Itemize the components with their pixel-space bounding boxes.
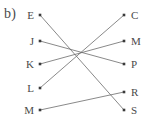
node-label-left-l: L — [27, 83, 34, 94]
node-dot-right-p[interactable] — [123, 63, 126, 66]
mapping-diagram: b) EJKLMCMPRS — [0, 0, 154, 122]
node-dot-right-r[interactable] — [123, 91, 126, 94]
node-label-right-s: S — [131, 105, 137, 116]
node-label-left-k: K — [26, 59, 34, 70]
node-dot-left-k[interactable] — [39, 63, 42, 66]
node-dot-left-l[interactable] — [39, 87, 42, 90]
node-label-left-m: M — [24, 105, 34, 116]
node-dot-left-j[interactable] — [39, 40, 42, 43]
node-label-right-r: R — [131, 87, 138, 98]
edge-l-to-c[interactable] — [40, 15, 124, 88]
node-label-right-p: P — [131, 59, 137, 70]
node-dot-right-s[interactable] — [123, 109, 126, 112]
node-dot-left-e[interactable] — [39, 14, 42, 17]
node-label-left-e: E — [27, 10, 34, 21]
edge-m-to-r[interactable] — [40, 92, 124, 110]
node-label-right-c: C — [131, 10, 138, 21]
node-dot-right-c[interactable] — [123, 14, 126, 17]
edge-group — [40, 15, 124, 110]
node-dot-right-m[interactable] — [123, 40, 126, 43]
node-label-right-m: M — [131, 36, 141, 47]
node-label-left-j: J — [30, 36, 34, 47]
node-dot-left-m[interactable] — [39, 109, 42, 112]
edge-e-to-s[interactable] — [40, 15, 124, 110]
